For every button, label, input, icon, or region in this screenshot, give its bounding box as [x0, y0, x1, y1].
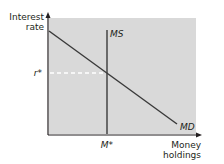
- md-label: MD: [180, 122, 195, 132]
- money-market-chart: Interest rate Money holdings MS MD r* M*: [0, 0, 224, 164]
- y-axis-title-line2: rate: [26, 22, 45, 32]
- m-star-label: M*: [101, 140, 114, 150]
- x-axis-title-line1: Money: [171, 140, 202, 150]
- chart-svg: Interest rate Money holdings MS MD r* M*: [0, 0, 224, 164]
- x-axis-arrow-icon: [196, 133, 202, 138]
- y-axis-title-line1: Interest: [9, 12, 44, 22]
- x-axis-title-line2: holdings: [163, 150, 201, 160]
- r-star-label: r*: [34, 68, 43, 78]
- y-axis-arrow-icon: [46, 12, 51, 18]
- ms-label: MS: [110, 29, 124, 39]
